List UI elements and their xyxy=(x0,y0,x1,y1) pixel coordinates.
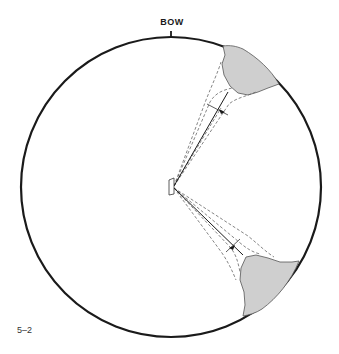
radar-bearing-diagram xyxy=(0,0,339,354)
upper-landmass xyxy=(222,46,279,95)
upper-bearing-line xyxy=(174,92,228,186)
vessel-icon xyxy=(169,178,174,195)
lower-landmass xyxy=(240,255,299,316)
figure-label: 5–2 xyxy=(17,325,32,335)
lower-bearing-line xyxy=(174,188,243,255)
